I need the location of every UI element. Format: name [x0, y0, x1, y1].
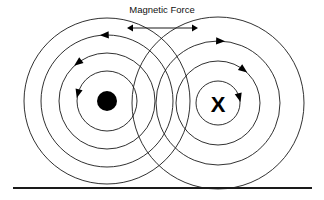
right-conductor-field-group: X: [132, 17, 304, 189]
diagram-title: Magnetic Force: [129, 4, 194, 15]
current-into-page-x: X: [211, 92, 226, 117]
left-conductor-field-group: [24, 18, 190, 184]
force-arrow-head-right: [192, 25, 198, 32]
field-direction-arrowhead: [74, 57, 83, 65]
current-out-of-page-dot: [97, 91, 117, 111]
field-direction-arrowhead: [216, 37, 225, 44]
magnetic-force-diagram: Magnetic Force X: [0, 0, 324, 200]
field-direction-arrowhead: [235, 92, 242, 102]
diagram-canvas: Magnetic Force X: [0, 0, 324, 200]
force-arrow-head-left: [127, 25, 133, 32]
field-direction-arrowhead: [100, 31, 109, 38]
title-group: Magnetic Force: [129, 4, 194, 15]
field-direction-arrowhead: [238, 64, 247, 72]
field-direction-arrowhead: [76, 88, 83, 98]
force-span-arrow: [127, 25, 198, 32]
